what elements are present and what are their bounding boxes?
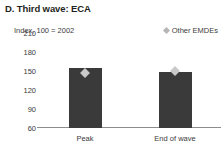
x-axis-tick-label: End of wave xyxy=(154,134,195,143)
y-axis-tick-label: 210 xyxy=(23,29,36,38)
page-title: D. Third wave: ECA xyxy=(5,3,91,14)
x-axis-tick-label: Peak xyxy=(76,134,93,143)
bar-end-of-wave xyxy=(159,72,192,128)
y-axis-tick-label: 120 xyxy=(23,86,36,95)
x-axis-line xyxy=(37,127,221,128)
chart-panel: D. Third wave: ECA Index, 100 = 2002 Oth… xyxy=(0,0,224,152)
y-axis-tick-label: 150 xyxy=(23,67,36,76)
y-axis-tick-label: 180 xyxy=(23,48,36,57)
y-axis-tick-label: 60 xyxy=(28,124,36,133)
y-axis-tick-label: 90 xyxy=(28,105,36,114)
plot-area: 2101801501209060 PeakEnd of wave xyxy=(40,33,220,128)
